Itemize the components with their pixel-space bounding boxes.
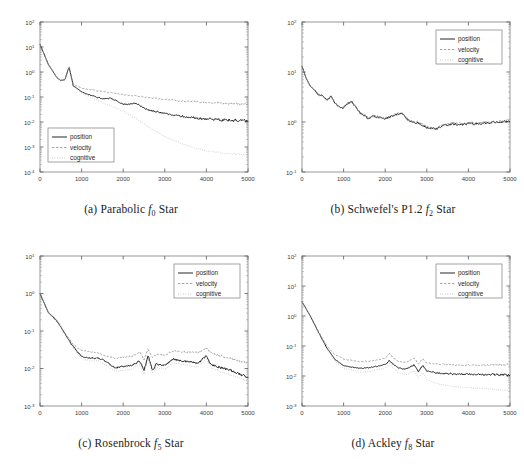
legend-label-cognitive: cognitive (458, 56, 484, 64)
panel-d: 10210110010-110-210-30100020003000400050… (262, 234, 524, 469)
legend: positionvelocitycognitive (174, 264, 240, 298)
plot-c: 10110010-110-210-3010002000300040005000p… (0, 234, 262, 434)
legend-label-velocity: velocity (458, 46, 480, 54)
x-tick-label: 0 (38, 410, 42, 416)
y-tick-label: 10-2 (286, 372, 297, 380)
y-tick-label: 10-1 (286, 168, 297, 176)
caption-c-suffix: Star (165, 437, 184, 449)
y-tick-label: 100 (25, 290, 35, 298)
y-tick-label: 101 (25, 43, 35, 51)
x-tick-label: 5000 (503, 176, 517, 182)
legend-label-position: position (196, 269, 218, 277)
legend: positionvelocitycognitive (436, 30, 502, 64)
caption-a-prefix: (a) (84, 203, 97, 215)
legend-label-cognitive: cognitive (70, 154, 96, 162)
caption-c-prefix: (c) (78, 437, 91, 449)
x-tick-label: 4000 (462, 410, 476, 416)
x-tick-label: 3000 (158, 176, 172, 182)
legend-label-cognitive: cognitive (196, 290, 222, 298)
plot-b: 10210110010-1010002000300040005000positi… (262, 0, 524, 200)
caption-a-sub: 0 (152, 209, 156, 218)
caption-b-suffix: Star (436, 203, 455, 215)
legend-label-velocity: velocity (70, 144, 92, 152)
x-tick-label: 0 (38, 176, 42, 182)
x-tick-label: 0 (300, 410, 304, 416)
caption-d-name: Ackley (368, 437, 402, 449)
x-tick-label: 4000 (200, 410, 214, 416)
caption-c: (c) Rosenbrock f5 Star (78, 437, 183, 452)
chart-svg-a: 10210110010-110-210-310-4010002000300040… (0, 0, 262, 200)
x-tick-label: 4000 (462, 176, 476, 182)
x-tick-label: 3000 (420, 176, 434, 182)
y-tick-label: 10-3 (286, 402, 297, 410)
y-tick-label: 10-3 (24, 143, 35, 151)
y-tick-label: 100 (25, 68, 35, 76)
caption-d-sub: 8 (408, 443, 412, 452)
x-tick-label: 1000 (337, 410, 351, 416)
x-tick-label: 2000 (117, 410, 131, 416)
chart-svg-d: 10210110010-110-210-30100020003000400050… (262, 234, 524, 434)
chart-svg-b: 10210110010-1010002000300040005000positi… (262, 0, 524, 200)
panel-b: 10210110010-1010002000300040005000positi… (262, 0, 524, 234)
legend: positionvelocitycognitive (48, 128, 114, 162)
x-tick-label: 2000 (379, 410, 393, 416)
y-tick-label: 10-2 (24, 118, 35, 126)
y-tick-label: 100 (287, 312, 297, 320)
legend-label-velocity: velocity (458, 280, 480, 288)
x-tick-label: 5000 (241, 410, 255, 416)
y-tick-label: 101 (287, 282, 297, 290)
x-tick-label: 4000 (200, 176, 214, 182)
caption-a: (a) Parabolic f0 Star (84, 203, 178, 218)
x-tick-label: 3000 (158, 410, 172, 416)
x-tick-label: 1000 (75, 176, 89, 182)
x-tick-label: 3000 (420, 410, 434, 416)
caption-b-prefix: (b) (331, 203, 345, 215)
y-tick-label: 102 (25, 18, 35, 26)
panel-c: 10110010-110-210-3010002000300040005000p… (0, 234, 262, 469)
x-tick-label: 2000 (379, 176, 393, 182)
plot-d: 10210110010-110-210-30100020003000400050… (262, 234, 524, 434)
caption-b-sub: 2 (429, 209, 433, 218)
y-tick-label: 101 (25, 252, 35, 260)
y-tick-label: 10-2 (24, 365, 35, 373)
caption-d: (d) Ackley f8 Star (351, 437, 434, 452)
x-tick-label: 1000 (337, 176, 351, 182)
caption-b-name: Schwefel's P1.2 (347, 203, 422, 215)
chart-svg-c: 10110010-110-210-3010002000300040005000p… (0, 234, 262, 434)
legend-label-position: position (70, 133, 92, 141)
caption-b: (b) Schwefel's P1.2 f2 Star (331, 203, 456, 218)
caption-a-name: Parabolic (100, 203, 145, 215)
legend-label-position: position (458, 269, 480, 277)
legend: positionvelocitycognitive (436, 264, 502, 298)
x-tick-label: 2000 (117, 176, 131, 182)
y-tick-label: 100 (287, 118, 297, 126)
y-tick-label: 10-1 (286, 342, 297, 350)
legend-label-cognitive: cognitive (458, 290, 484, 298)
y-tick-label: 10-1 (24, 327, 35, 335)
x-tick-label: 1000 (75, 410, 89, 416)
caption-d-prefix: (d) (351, 437, 365, 449)
y-tick-label: 101 (287, 68, 297, 76)
y-tick-label: 10-4 (24, 168, 35, 176)
caption-a-suffix: Star (159, 203, 178, 215)
y-tick-label: 102 (287, 252, 297, 260)
legend-label-position: position (458, 35, 480, 43)
x-tick-label: 5000 (503, 410, 517, 416)
x-tick-label: 0 (300, 176, 304, 182)
caption-c-sub: 5 (157, 443, 161, 452)
plot-a: 10210110010-110-210-310-4010002000300040… (0, 0, 262, 200)
figure-panel-grid: 10210110010-110-210-310-4010002000300040… (0, 0, 524, 469)
caption-d-suffix: Star (415, 437, 434, 449)
panel-a: 10210110010-110-210-310-4010002000300040… (0, 0, 262, 234)
legend-label-velocity: velocity (196, 280, 218, 288)
y-tick-label: 10-1 (24, 93, 35, 101)
caption-c-name: Rosenbrock (95, 437, 151, 449)
y-tick-label: 10-3 (24, 402, 35, 410)
x-tick-label: 5000 (241, 176, 255, 182)
y-tick-label: 102 (287, 18, 297, 26)
